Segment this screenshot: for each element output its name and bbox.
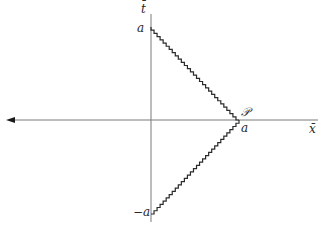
lower-staircase: [151, 120, 239, 214]
x-axis-label: x̄: [309, 122, 316, 136]
t-axis-label: t̄: [141, 0, 147, 16]
vertex-p-label: 𝒫: [241, 105, 253, 119]
upper-staircase: [151, 27, 239, 120]
spacetime-diagram: t̄ a −a 𝒫 a x̄: [0, 0, 324, 225]
bottom-neg-a-label: −a: [133, 205, 150, 219]
top-a-label: a: [137, 21, 144, 35]
x-axis-arrow-icon: [6, 117, 15, 123]
vertex-a-label: a: [241, 121, 248, 135]
